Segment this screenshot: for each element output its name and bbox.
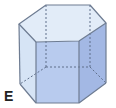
figure-label: E bbox=[4, 89, 13, 103]
front-face bbox=[36, 41, 79, 103]
hexagonal-prism bbox=[0, 0, 116, 108]
